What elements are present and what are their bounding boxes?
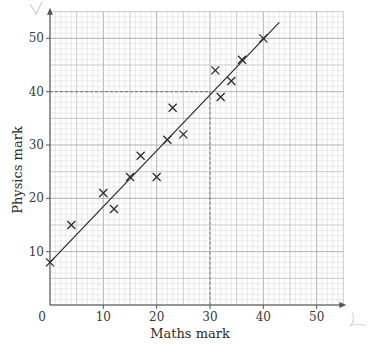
x-tick-label: 30 xyxy=(202,310,217,324)
y-tick-label: 10 xyxy=(29,245,44,259)
axes xyxy=(47,8,346,308)
x-tick-label: 20 xyxy=(149,310,164,324)
x-tick-label: 40 xyxy=(256,310,271,324)
scatter-chart: 010203040501020304050 Maths mark Physics… xyxy=(0,0,368,348)
grid xyxy=(50,12,343,305)
y-tick-label: 50 xyxy=(29,31,44,45)
tick-labels: 010203040501020304050 xyxy=(29,31,325,324)
x-tick-label: 0 xyxy=(38,310,46,324)
x-axis-label: Maths mark xyxy=(150,326,230,341)
x-tick-label: 50 xyxy=(309,310,324,324)
y-tick-label: 20 xyxy=(29,191,44,205)
pencil-mark xyxy=(30,2,42,14)
pencil-mark xyxy=(350,312,366,326)
y-tick-label: 30 xyxy=(29,138,44,152)
x-axis-arrow-icon xyxy=(339,302,346,308)
x-tick-label: 10 xyxy=(96,310,111,324)
y-axis-arrow-icon xyxy=(47,8,53,15)
y-tick-label: 40 xyxy=(29,85,44,99)
y-axis-label: Physics mark xyxy=(10,126,25,214)
